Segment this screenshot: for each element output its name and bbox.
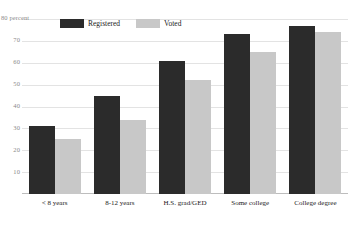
- bar-voted: [120, 120, 146, 194]
- bar-group: [22, 19, 87, 194]
- ytick-label-30: 30: [0, 124, 20, 131]
- bar-registered: [29, 126, 55, 194]
- bar-group: [283, 19, 348, 194]
- xlabel-3: Some college: [218, 199, 283, 207]
- bar-voted: [250, 52, 276, 194]
- ytick-label-50: 50: [0, 80, 20, 87]
- legend-swatch-registered: [60, 19, 84, 28]
- xlabel-0: < 8 years: [22, 199, 87, 207]
- bar-voted: [185, 80, 211, 194]
- bar-groups: [22, 19, 348, 194]
- legend-label-registered: Registered: [88, 20, 120, 28]
- ytick-label-60: 60: [0, 58, 20, 65]
- bar-registered: [159, 61, 185, 194]
- ytick-label-10: 10: [0, 168, 20, 175]
- bar-group: [218, 19, 283, 194]
- xlabel-4: College degree: [283, 199, 348, 207]
- x-axis-labels: < 8 years 8-12 years H.S. grad/GED Some …: [22, 199, 348, 207]
- bar-registered: [224, 34, 250, 194]
- xlabel-1: 8-12 years: [87, 199, 152, 207]
- legend-label-voted: Voted: [164, 20, 181, 28]
- bar-registered: [94, 96, 120, 194]
- bar-registered: [289, 26, 315, 194]
- bar-group: [152, 19, 217, 194]
- ytick-label-20: 20: [0, 146, 20, 153]
- bar-group: [87, 19, 152, 194]
- xlabel-2: H.S. grad/GED: [152, 199, 217, 207]
- ytick-label-40: 40: [0, 102, 20, 109]
- chart-legend: Registered Voted: [60, 19, 181, 28]
- ytick-label-70: 70: [0, 36, 20, 43]
- chart-container: 80 percent 70 60 50 40 30 20 10 < 8 year…: [0, 0, 353, 225]
- legend-item-voted: Voted: [136, 19, 181, 28]
- legend-item-registered: Registered: [60, 19, 120, 28]
- bar-voted: [55, 139, 81, 194]
- bar-voted: [315, 32, 341, 194]
- legend-swatch-voted: [136, 19, 160, 28]
